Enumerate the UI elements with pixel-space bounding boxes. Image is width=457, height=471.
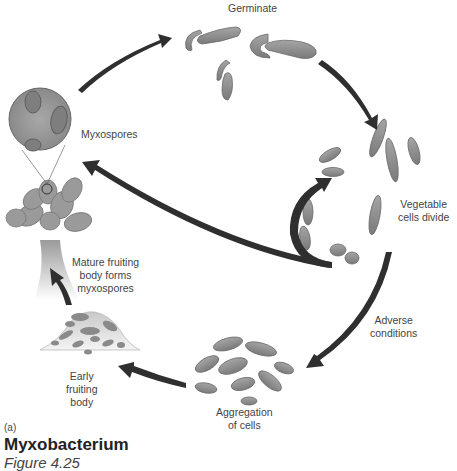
label-vegetable-cells-divide: Vegetable cells divide [398, 198, 449, 224]
germinating-cells [186, 27, 317, 100]
label-adverse-conditions: Adverse conditions [370, 314, 417, 340]
panel-letter: (a) [4, 422, 16, 433]
label-aggregation: Aggregation of cells [216, 406, 273, 432]
label-mature-fruiting-body: Mature fruiting body forms myxospores [72, 256, 139, 295]
figure-title: Myxobacterium [4, 435, 129, 455]
label-myxospores: Myxospores [81, 128, 138, 141]
label-early-fruiting-body: Early fruiting body [66, 370, 98, 409]
aggregating-cells [193, 334, 295, 405]
myxospore-magnified [9, 88, 71, 151]
label-germinate: Germinate [228, 2, 277, 15]
figure-caption: Figure 4.25 [4, 454, 80, 471]
early-fruiting-body [40, 312, 140, 355]
